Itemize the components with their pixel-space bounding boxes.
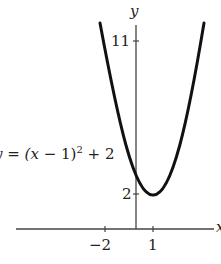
y-tick-label-11: 11 [111,34,130,49]
equation-label: y = (x − 1)2 + 2 [0,145,114,162]
x-axis-label: x [216,220,221,235]
equation-suffix: + 2 [83,145,115,163]
y-tick-label-2: 2 [122,187,132,202]
x-tick-label-1: 1 [148,238,158,253]
equation-prefix: y = ( [0,145,30,163]
x-tick-label-neg2: −2 [89,238,111,253]
equation-var: x [30,145,38,163]
equation-mid: − 1) [39,145,77,163]
y-axis-label: y [130,4,138,19]
